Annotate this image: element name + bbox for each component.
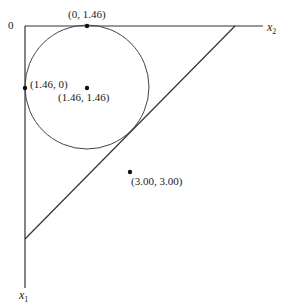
point-tangent-left: [23, 86, 27, 90]
point-label-left: (1.46, 0): [30, 78, 68, 91]
point-tangent-top: [85, 24, 89, 28]
diagonal-line: [25, 26, 235, 239]
point-label-center: (1.46, 1.46): [58, 91, 110, 104]
x1-axis-label: x1: [18, 288, 28, 304]
x2-axis-label: x2: [266, 20, 276, 36]
point-label-top: (0, 1.46): [68, 8, 106, 21]
inscribed-circle-diagram: 0 (0, 1.46) (1.46, 0) (1.46, 1.46) (3.00…: [0, 0, 292, 308]
origin-label: 0: [8, 19, 14, 31]
point-tangent-diagonal: [128, 170, 132, 174]
point-center: [85, 86, 89, 90]
point-label-diagonal: (3.00, 3.00): [131, 175, 183, 188]
